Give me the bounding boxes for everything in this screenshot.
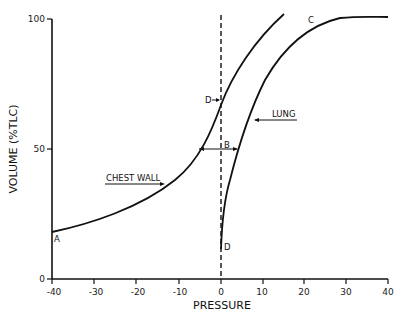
- x-tick: -40: [47, 287, 62, 297]
- x-tick: 40: [382, 287, 394, 297]
- x-axis-label: PRESSURE: [193, 299, 251, 312]
- x-tick: -10: [173, 287, 188, 297]
- y-tick-0: 0: [39, 274, 45, 284]
- x-tick: 30: [340, 287, 352, 297]
- label-D-upper: D: [205, 95, 212, 105]
- label-B: B: [224, 140, 230, 150]
- x-tick: 20: [298, 287, 310, 297]
- x-tick: 0: [218, 287, 224, 297]
- label-A: A: [54, 234, 60, 244]
- label-C: C: [308, 15, 314, 25]
- x-tick: -30: [89, 287, 104, 297]
- label-lung: LUNG: [272, 109, 295, 119]
- y-tick-50: 50: [34, 144, 46, 154]
- pressure-volume-chart: 100 50 0 -40 -30 -20 -10 0 10 20 30 40 P…: [0, 0, 402, 315]
- label-D-lower: D: [224, 242, 231, 252]
- label-chest-wall: CHEST WALL: [106, 173, 160, 183]
- lung-curve: [221, 17, 388, 249]
- x-tick: -20: [131, 287, 146, 297]
- chest-wall-curve: [52, 14, 284, 232]
- y-axis-label: VOLUME (%TLC): [7, 104, 20, 193]
- y-tick-100: 100: [28, 14, 45, 24]
- x-tick: 10: [256, 287, 268, 297]
